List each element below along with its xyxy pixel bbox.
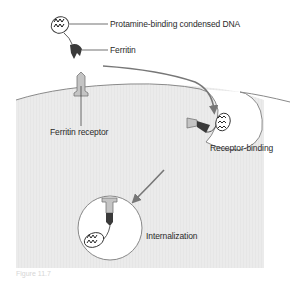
label-internalization: Internalization: [146, 231, 197, 241]
dna-particle-icon: [48, 14, 72, 37]
ferritin-icon: [70, 44, 82, 59]
bound-receptor-icon: [187, 118, 197, 128]
label-receptor: Ferritin receptor: [50, 127, 108, 137]
label-receptor-binding: Receptor-binding: [210, 143, 273, 153]
figure-caption: Figure 11.7: [16, 270, 51, 277]
label-dna: Protamine-binding condensed DNA: [110, 19, 240, 29]
label-ferritin: Ferritin: [110, 45, 136, 55]
